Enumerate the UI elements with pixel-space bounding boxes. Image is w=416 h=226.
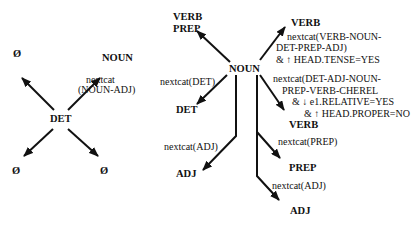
node-empty-top-left: Ø [13, 48, 21, 59]
label-adj-bottom: nextcat(ADJ) [272, 180, 326, 191]
node-verb-top: VERB [291, 17, 320, 28]
node-adj-left: ADJ [176, 168, 196, 179]
label-verb-mid-4: & ↑ HEAD.PROPER=NO [304, 108, 410, 119]
arrow-noun-to-verb-prep [197, 31, 230, 62]
diagram-canvas: Ø NOUN DET Ø Ø nextcat (NOUN-ADJ) VERB P… [0, 0, 416, 226]
label-verb-top-1: nextcat(VERB-NOUN- [287, 31, 381, 42]
node-det-center: DET [50, 113, 72, 124]
node-empty-bottom-right: Ø [100, 165, 108, 176]
node-verb-prep-line2: PREP [173, 23, 200, 34]
node-verb-mid: VERB [289, 119, 318, 130]
label-verb-mid-1: nextcat(DET-ADJ-NOUN- [273, 73, 381, 84]
node-noun: NOUN [102, 52, 133, 63]
label-prep: nextcat(PREP) [278, 136, 337, 147]
arrow-noun-to-adj-left [203, 75, 236, 170]
node-empty-bottom-left: Ø [12, 165, 20, 176]
node-verb-prep-line1: VERB [173, 11, 202, 22]
node-adj-bottom: ADJ [290, 205, 310, 216]
node-prep: PREP [289, 162, 316, 173]
node-noun-center: NOUN [229, 63, 260, 74]
arrow-det-to-empty-bottom-left [24, 129, 53, 156]
label-verb-mid-2: PREP-VERB-CHEREL [282, 85, 378, 96]
label-noun-adj: (NOUN-ADJ) [78, 84, 135, 95]
arrow-det-to-empty-bottom-right [68, 129, 98, 156]
label-verb-top-2: DET-PREP-ADJ) [276, 42, 347, 53]
arrow-det-to-empty-top-left [22, 78, 54, 110]
label-adj-left: nextcat(ADJ) [164, 141, 218, 152]
label-det: nextcat(DET) [160, 76, 215, 87]
label-verb-mid-3: & ↓ e1.RELATIVE=YES [292, 96, 394, 107]
node-det: DET [176, 104, 198, 115]
label-verb-top-3: & ↑ HEAD.TENSE=YES [276, 54, 380, 65]
